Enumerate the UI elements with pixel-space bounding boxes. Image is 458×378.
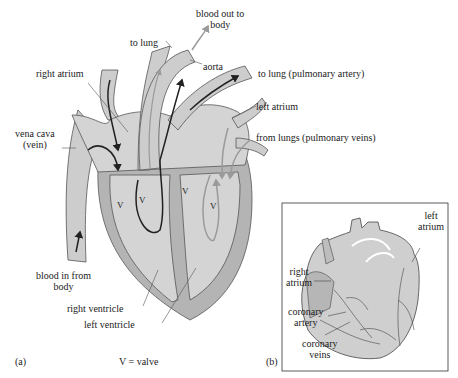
label-from-lungs-pulmonary-veins: from lungs (pulmonary veins) — [256, 132, 376, 143]
label-left-ventricle: left ventricle — [84, 319, 135, 330]
label-to-lung-pulmonary-artery: to lung (pulmonary artery) — [258, 68, 364, 79]
label-vena-cava: vena cava (vein) — [15, 128, 55, 150]
label-right-ventricle: right ventricle — [67, 303, 123, 314]
valve-mark-2: V — [139, 195, 146, 206]
label-blood-in-from-body: blood in from body — [36, 270, 91, 292]
valve-legend: V = valve — [119, 356, 158, 367]
label-right-atrium: right atrium — [36, 68, 84, 79]
heart-diagram — [0, 0, 458, 378]
valve-mark-3: V — [182, 186, 189, 197]
label-b-coronary-artery: coronary artery — [288, 306, 324, 328]
label-to-lung: to lung — [130, 37, 158, 48]
valve-mark-4: V — [210, 201, 217, 212]
panel-label-b: (b) — [266, 356, 278, 367]
valve-mark-1: V — [117, 200, 124, 211]
label-b-right-atrium: right atrium — [286, 266, 312, 288]
label-aorta: aorta — [203, 61, 223, 72]
label-left-atrium: left atrium — [256, 101, 298, 112]
label-b-coronary-veins: coronary veins — [302, 338, 338, 360]
label-blood-out-to-body: blood out to body — [196, 8, 244, 30]
panel-label-a: (a) — [15, 356, 26, 367]
heart-cross-section — [62, 26, 268, 323]
label-b-left-atrium: left atrium — [418, 210, 444, 232]
